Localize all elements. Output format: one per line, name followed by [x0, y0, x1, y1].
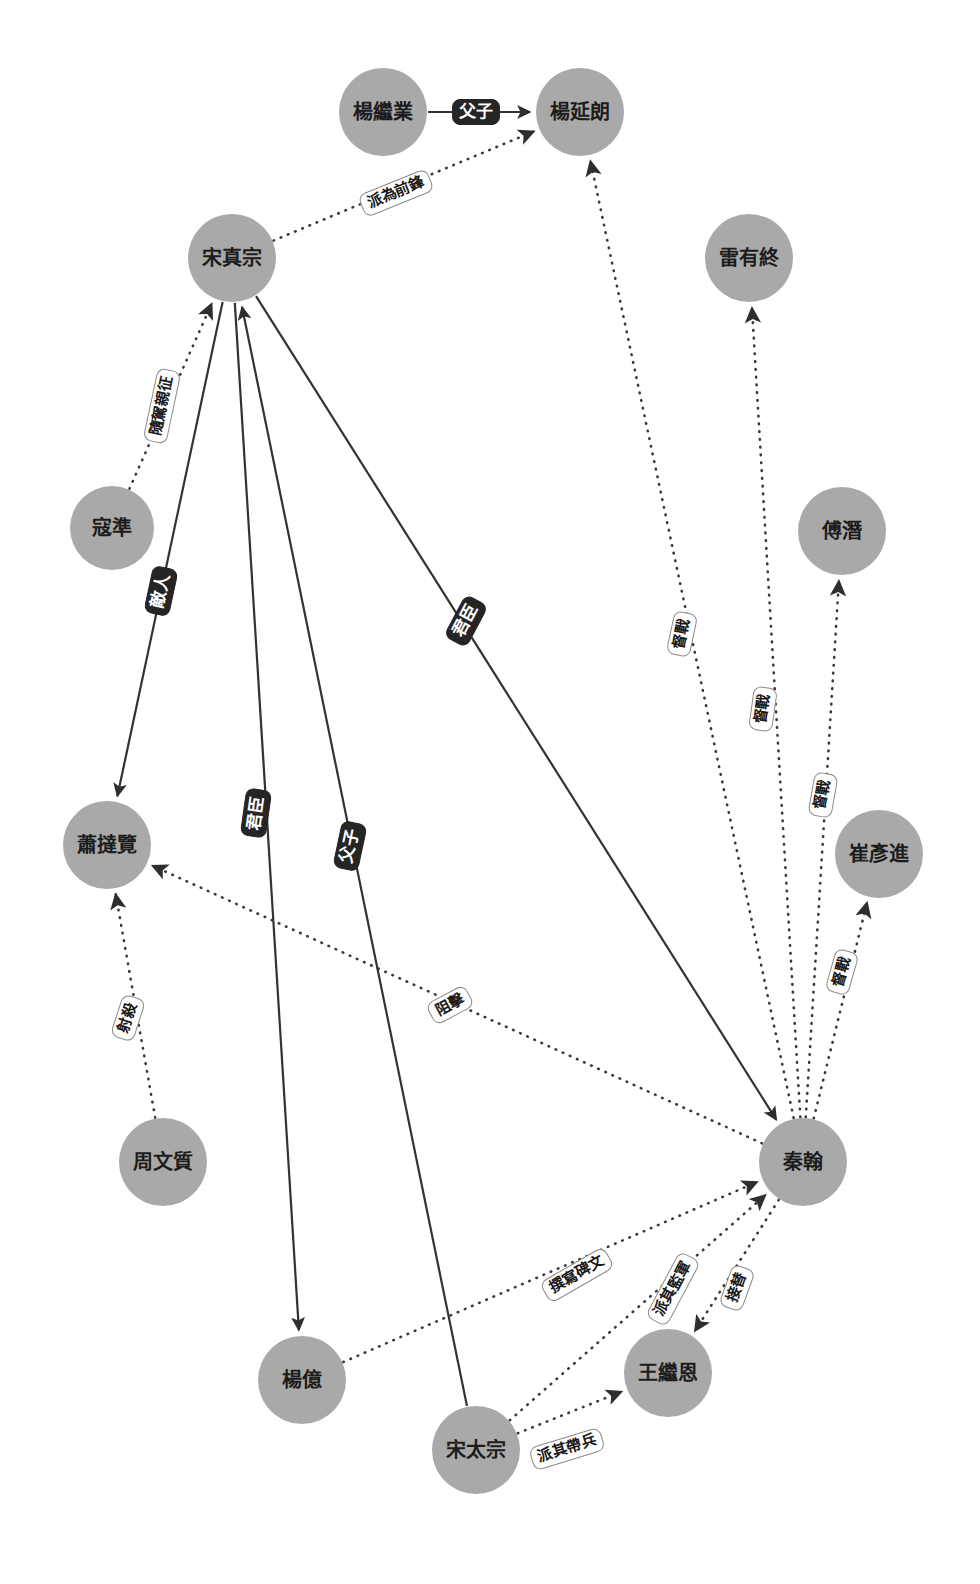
graph-node-label: 楊延朗 [550, 102, 610, 122]
graph-node-label: 秦翰 [783, 1152, 823, 1172]
graph-node-label: 宋太宗 [446, 1440, 506, 1460]
graph-node-label: 王繼恩 [638, 1363, 698, 1383]
edge-label-e1: 父子 [452, 99, 500, 125]
graph-node-wangjien[interactable]: 王繼恩 [624, 1329, 712, 1417]
graph-edge-e7 [256, 296, 776, 1120]
graph-node-zhouwenzhi[interactable]: 周文質 [119, 1118, 207, 1206]
graph-node-label: 周文質 [133, 1152, 193, 1172]
graph-node-label: 楊億 [282, 1370, 322, 1390]
edge-label-text: 父子 [452, 99, 500, 125]
graph-node-label: 蕭撻覽 [77, 835, 137, 855]
graph-node-cuiyanjin[interactable]: 崔彥進 [835, 810, 923, 898]
graph-node-label: 宋真宗 [202, 248, 262, 268]
graph-node-yangjiye[interactable]: 楊繼業 [339, 68, 427, 156]
graph-node-kouzhun[interactable]: 寇準 [70, 486, 154, 570]
graph-node-songzhenzong[interactable]: 宋真宗 [188, 214, 276, 302]
graph-node-xiaodalan[interactable]: 蕭撻覽 [63, 801, 151, 889]
graph-node-label: 寇準 [92, 518, 132, 538]
graph-edge-e10 [806, 581, 839, 1117]
graph-node-qinhan[interactable]: 秦翰 [759, 1118, 847, 1206]
graph-edge-e17 [518, 1392, 622, 1434]
graph-node-yangyi[interactable]: 楊億 [258, 1336, 346, 1424]
graph-node-label: 傅潛 [822, 521, 862, 541]
graph-node-label: 崔彥進 [849, 844, 909, 864]
graph-node-label: 楊繼業 [353, 102, 413, 122]
graph-edge-e11 [814, 903, 867, 1119]
graph-node-leiyouzhong[interactable]: 雷有終 [705, 214, 793, 302]
graph-node-yangyanlang[interactable]: 楊延朗 [536, 68, 624, 156]
graph-node-label: 雷有終 [719, 248, 779, 268]
graph-node-songtaizong[interactable]: 宋太宗 [432, 1406, 520, 1494]
knowledge-graph-canvas: 楊繼業楊延朗宋真宗雷有終傅潛寇準崔彥進蕭撻覽周文質秦翰楊億王繼恩宋太宗 父子派為… [0, 0, 980, 1584]
graph-node-fuqian[interactable]: 傅潛 [798, 487, 886, 575]
